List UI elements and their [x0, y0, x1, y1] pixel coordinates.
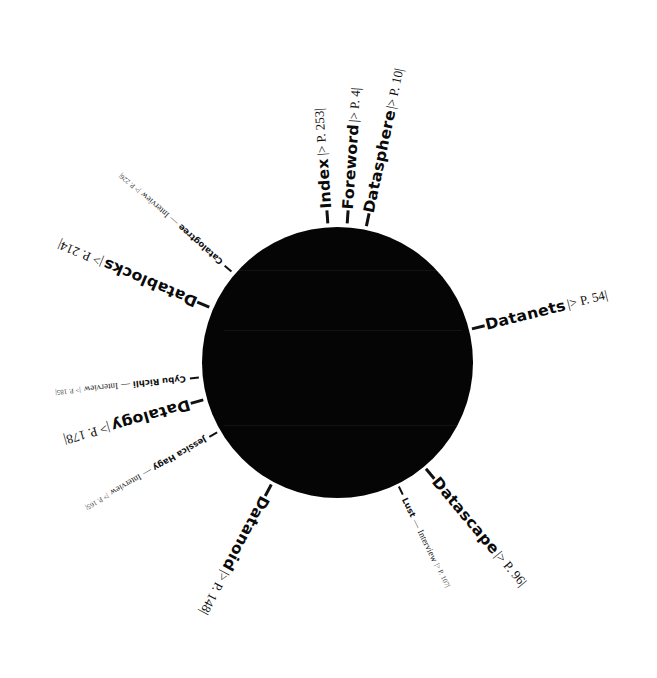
chapter-title[interactable]: Datasphere — [360, 108, 399, 214]
interview-label: Interview — [416, 528, 440, 563]
interview-label: Interview — [83, 381, 118, 395]
page-reference: |> P. 107| — [433, 562, 451, 589]
spoke-tick — [364, 213, 370, 226]
page-reference: |> P. 226| — [117, 172, 142, 195]
spoke-tick — [264, 484, 273, 497]
page-reference: |> P. 178| — [62, 419, 112, 447]
chapter-title[interactable]: Datalogy — [109, 396, 192, 436]
interview-label: Interview — [108, 472, 143, 498]
chapter-title[interactable]: Datanets — [483, 296, 567, 333]
page-reference: |> P. 253| — [311, 108, 330, 157]
page-reference: |> P. 54| — [565, 287, 609, 312]
spoke-tick — [472, 324, 485, 330]
interview-name[interactable]: Lust — [400, 496, 418, 519]
radial-index-diagram: Index |> P. 253| Foreword |> P. 4| Datas… — [0, 0, 657, 678]
interview-name[interactable]: Cybu Richli — [132, 374, 186, 390]
spoke-tick — [345, 210, 349, 223]
separator: — — [410, 517, 423, 529]
page-reference: |> P. 148| — [196, 568, 232, 618]
chapter-title[interactable]: Index — [314, 158, 335, 209]
interview-label: Interview — [138, 190, 171, 220]
spoke-tick — [190, 377, 199, 380]
spoke-tick — [196, 301, 209, 309]
page-reference: |> P. 165| — [84, 492, 110, 512]
page-reference: |> P. 4| — [346, 87, 364, 123]
interview-name[interactable]: Jessica Hagy — [151, 435, 208, 474]
hub-scanline — [224, 425, 463, 426]
separator: — — [141, 466, 154, 479]
page-reference: |> P. 214| — [55, 236, 105, 269]
interview-name[interactable]: Catalogtree — [176, 222, 225, 267]
spoke-tick — [190, 399, 203, 405]
page-reference: |> P. 10| — [383, 67, 407, 111]
spoke-tick — [425, 468, 436, 480]
chapter-title[interactable]: Datascape — [428, 473, 503, 557]
spoke-tick — [325, 210, 329, 223]
chapter-title[interactable]: Datanoid — [219, 493, 274, 574]
spoke-tick — [209, 432, 218, 438]
separator: — — [121, 380, 131, 391]
page-reference: |> P. 185| — [55, 386, 81, 397]
page-reference: |> P. 96| — [491, 548, 530, 590]
chapter-title[interactable]: Foreword — [339, 123, 363, 210]
chapter-title[interactable]: Datablocks — [100, 255, 200, 311]
spoke-tick — [224, 265, 232, 272]
spoke-tick — [398, 486, 404, 495]
